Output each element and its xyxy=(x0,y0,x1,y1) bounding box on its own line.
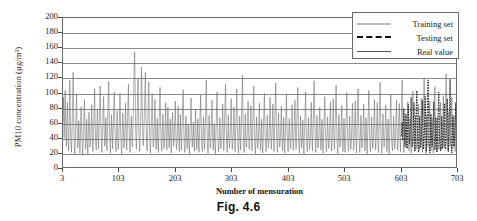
y-tick-label-60: 60 xyxy=(20,118,58,127)
y-tick-label-40: 40 xyxy=(20,133,58,142)
x-tick-label-303: 303 xyxy=(211,173,251,183)
series-path-real-value xyxy=(63,52,457,155)
x-tick-label-103: 103 xyxy=(98,173,138,183)
x-tick-mark-603 xyxy=(401,168,402,172)
x-tick-label-703: 703 xyxy=(437,173,477,183)
x-tick-mark-303 xyxy=(231,168,232,172)
y-tick-label-0: 0 xyxy=(20,163,58,172)
y-tick-label-140: 140 xyxy=(20,57,58,66)
legend-item-training-set[interactable]: Training set xyxy=(353,17,458,30)
x-tick-label-203: 203 xyxy=(155,173,195,183)
x-tick-label-3: 3 xyxy=(42,173,82,183)
legend-label: Testing set xyxy=(394,33,458,43)
legend-swatch-icon xyxy=(357,47,391,56)
x-axis-title: Number of mensuration xyxy=(62,186,457,196)
y-tick-label-160: 160 xyxy=(20,42,58,51)
legend-label: Training set xyxy=(394,19,458,29)
x-tick-mark-103 xyxy=(118,168,119,172)
y-tick-label-120: 120 xyxy=(20,72,58,81)
x-tick-mark-503 xyxy=(344,168,345,172)
x-tick-label-403: 403 xyxy=(268,173,308,183)
figure-caption: Fig. 4.6 xyxy=(0,200,477,214)
legend-item-real-value[interactable]: Real value xyxy=(353,45,458,58)
x-tick-label-503: 503 xyxy=(324,173,364,183)
legend-item-testing-set[interactable]: Testing set xyxy=(353,31,458,44)
legend-label: Real value xyxy=(394,47,458,57)
legend[interactable]: Training setTesting setReal value xyxy=(352,12,459,59)
x-tick-mark-203 xyxy=(175,168,176,172)
legend-swatch-icon xyxy=(357,33,391,42)
figure-container: PM10 concentration (µg/m³) 0204060801001… xyxy=(0,0,477,221)
legend-swatch-icon xyxy=(357,19,391,28)
y-tick-label-20: 20 xyxy=(20,148,58,157)
y-tick-label-200: 200 xyxy=(20,12,58,21)
x-tick-label-603: 603 xyxy=(381,173,421,183)
y-tick-label-100: 100 xyxy=(20,88,58,97)
x-tick-mark-703 xyxy=(457,168,458,172)
y-tick-label-180: 180 xyxy=(20,27,58,36)
y-tick-label-80: 80 xyxy=(20,103,58,112)
x-tick-mark-3 xyxy=(62,168,63,172)
x-tick-mark-403 xyxy=(288,168,289,172)
